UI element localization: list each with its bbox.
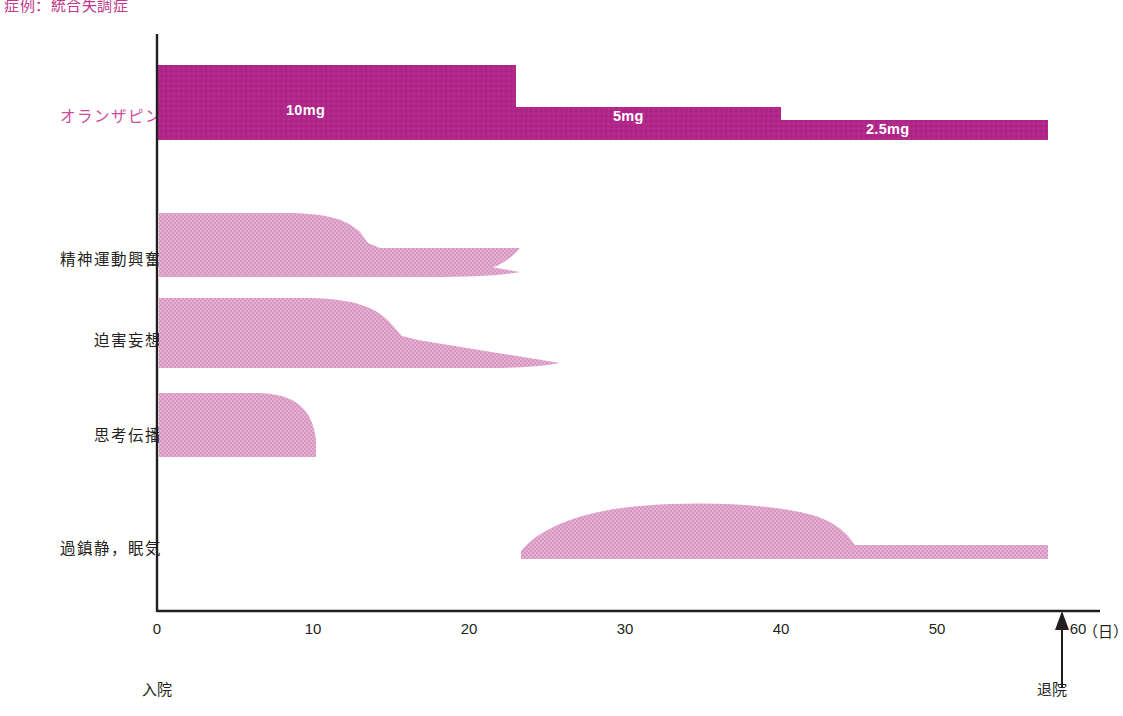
dose-label-5mg: 5mg <box>613 108 644 124</box>
x-tick-20: 20 <box>454 620 484 637</box>
x-tick-50: 50 <box>922 620 952 637</box>
x-tick-40: 40 <box>766 620 796 637</box>
event-label-admission: 入院 <box>142 678 172 699</box>
series-thought-broadcasting <box>159 393 316 457</box>
event-label-discharge: 退院 <box>1037 678 1067 699</box>
dose-label-10mg: 10mg <box>286 102 325 118</box>
x-axis-unit-label: （日） <box>1083 620 1123 641</box>
dose-label-2.5mg: 2.5mg <box>866 121 909 137</box>
series-persecutory-delusion <box>159 298 560 368</box>
x-tick-30: 30 <box>610 620 640 637</box>
x-tick-0: 0 <box>142 620 172 637</box>
series-oversedation-drowsiness <box>521 504 1048 559</box>
x-tick-10: 10 <box>298 620 328 637</box>
series-psychomotor-agitation <box>159 213 520 277</box>
